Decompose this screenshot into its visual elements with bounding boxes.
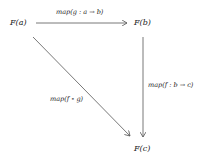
node-fa: F(a) xyxy=(10,19,27,27)
commutative-diagram: F(a) F(b) F(c) map(g : a → b) map(f : b … xyxy=(0,0,204,161)
arrow-fa-to-fc xyxy=(33,37,130,136)
node-fc: F(c) xyxy=(134,145,150,153)
node-fb: F(b) xyxy=(134,19,151,27)
edge-label-map-f-compose-g: map(f ∘ g) xyxy=(50,96,83,103)
edge-label-map-f: map(f : b → c) xyxy=(148,82,193,89)
edge-label-map-g: map(g : a → b) xyxy=(56,9,103,16)
